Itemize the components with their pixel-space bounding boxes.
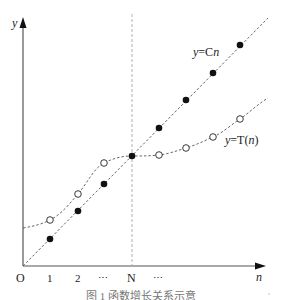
x-tick-ellipsis-2: ⋯ [153, 272, 163, 283]
x-axis-label: n [256, 270, 262, 284]
filled-circle-icon [237, 42, 244, 49]
origin-label: O [16, 271, 25, 285]
figure-caption: 图 1 函数增长关系示意 [0, 290, 282, 300]
open-circle-icon [183, 145, 190, 152]
y-axis [20, 17, 27, 266]
y-axis-label: y [11, 16, 18, 30]
filled-circle-icon [75, 208, 82, 215]
tn-label: y=T(n) [224, 133, 258, 147]
x-tick-n: N [127, 271, 136, 285]
cn-label: y=Cn [192, 45, 219, 59]
x-axis-arrow-icon [255, 263, 266, 270]
growth-diagram: y n O 1 2 ⋯ N ⋯ y=Cn y=T(n) [0, 0, 282, 300]
open-circle-icon [47, 217, 54, 224]
open-circle-icon [156, 152, 163, 159]
x-axis [23, 263, 266, 270]
open-circle-icon [237, 116, 244, 123]
open-circle-icon [101, 160, 108, 167]
filled-circle-icon [47, 236, 54, 243]
x-tick-2: 2 [75, 272, 81, 284]
open-circle-icon [75, 191, 82, 198]
open-circle-icon [210, 134, 217, 141]
filled-circle-icon [156, 125, 163, 132]
x-tick-1: 1 [47, 272, 53, 284]
tn-markers [47, 116, 244, 224]
tn-curve [23, 98, 268, 228]
filled-circle-icon [129, 153, 136, 160]
cn-markers [47, 42, 244, 243]
filled-circle-icon [210, 70, 217, 77]
filled-circle-icon [183, 97, 190, 104]
y-axis-arrow-icon [20, 17, 27, 28]
x-tick-ellipsis-1: ⋯ [98, 272, 108, 283]
filled-circle-icon [101, 181, 108, 188]
